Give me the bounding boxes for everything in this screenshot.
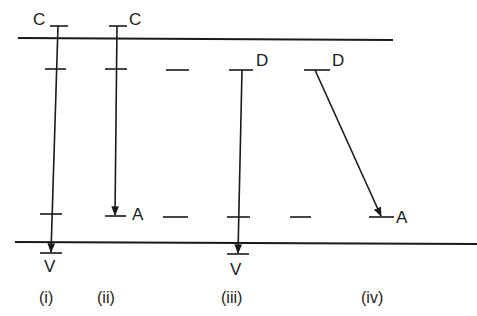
label-c: C: [129, 10, 141, 29]
energy-level-diagram: C V (i) C A (ii) D V (iii) D A (iv): [0, 0, 477, 316]
caption-iv: (iv): [361, 289, 383, 306]
conduction-band-edge-line: [18, 38, 393, 40]
caption-i: (i): [39, 289, 53, 306]
transition-iii: D V (iii): [221, 51, 268, 306]
transition-arrow: [315, 70, 381, 216]
label-d: D: [256, 51, 268, 70]
caption-ii: (ii): [97, 289, 115, 306]
transition-arrow: [115, 26, 117, 215]
valence-band-edge-line: [15, 242, 477, 244]
transition-arrow: [51, 26, 58, 252]
transition-i: C V (i): [33, 10, 68, 306]
label-c: C: [33, 10, 45, 29]
label-v: V: [230, 260, 242, 279]
label-a: A: [396, 208, 408, 227]
label-d: D: [332, 51, 344, 70]
label-v: V: [44, 257, 56, 276]
transition-ii: C A (ii): [97, 10, 144, 306]
caption-iii: (iii): [221, 289, 242, 306]
transition-iv: D A (iv): [304, 51, 408, 306]
transition-arrow: [238, 70, 242, 253]
label-a: A: [132, 205, 144, 224]
